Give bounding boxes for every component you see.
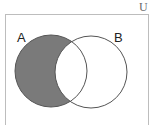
set-b-label: B [114, 30, 123, 45]
set-a-label: A [17, 30, 26, 45]
venn-diagram: U A B [0, 0, 157, 125]
universe-label: U [139, 0, 148, 14]
